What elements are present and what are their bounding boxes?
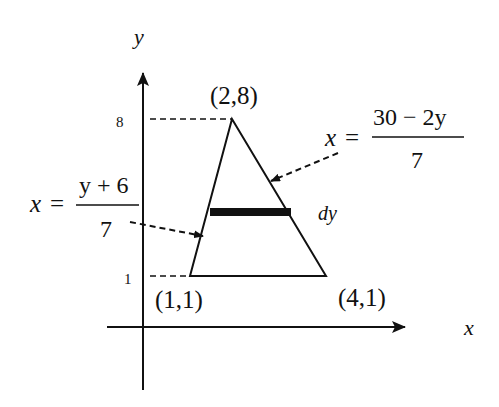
vertex-label-bottom-left: (1,1) <box>155 286 203 314</box>
right-eq-denominator: 7 <box>411 147 423 173</box>
arrow-to-left-boundary <box>130 222 203 236</box>
right-eq-sign: = <box>345 124 359 151</box>
y-tick-1-label: 1 <box>124 271 132 287</box>
vertex-label-bottom-right: (4,1) <box>338 284 386 312</box>
right-eq-lhs: x <box>324 124 336 151</box>
left-eq-lhs: x <box>29 190 41 217</box>
left-boundary-equation: x = y + 6 7 <box>29 172 139 242</box>
guide-lines <box>150 119 232 276</box>
triangle-region-diagram: y x 8 1 dy (2,8) (1,1) (4,1) x = 30 − 2y… <box>0 0 499 407</box>
y-tick-8-label: 8 <box>116 114 124 130</box>
vertex-label-apex: (2,8) <box>210 82 258 110</box>
triangle-region <box>190 119 326 276</box>
left-eq-denominator: 7 <box>100 216 112 242</box>
horizontal-strip-dy <box>210 208 291 216</box>
y-axis-label: y <box>132 24 144 49</box>
axes: y x 8 1 <box>107 24 474 390</box>
right-eq-numerator: 30 − 2y <box>373 104 447 130</box>
arrow-to-right-boundary <box>271 153 338 181</box>
strip-label-dy: dy <box>318 202 337 225</box>
left-eq-sign: = <box>50 190 64 217</box>
x-axis-label: x <box>463 315 474 340</box>
left-eq-numerator: y + 6 <box>79 172 129 198</box>
right-boundary-equation: x = 30 − 2y 7 <box>324 104 464 173</box>
